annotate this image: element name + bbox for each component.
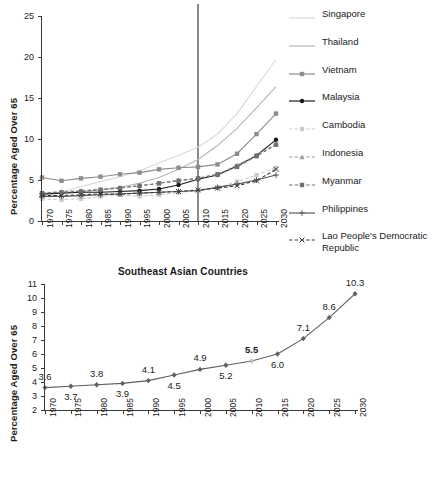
bottom-chart-title: Southeast Asian Countries	[118, 266, 248, 277]
y-axis-tick	[38, 180, 42, 181]
legend-item-label: Cambodia	[322, 119, 365, 131]
legend-item-malaysia[interactable]: Malaysia	[288, 91, 433, 119]
y-axis-tick-label: 9	[11, 308, 37, 317]
x-axis-tick	[179, 221, 180, 225]
y-axis-tick-label: 10	[11, 294, 37, 303]
legend-key-swatch	[288, 68, 316, 80]
x-axis-tick-label: 2010	[202, 209, 211, 228]
x-axis-tick	[257, 221, 258, 225]
y-axis-tick-label: 0	[8, 217, 34, 226]
legend-item-label: Philippines	[322, 203, 368, 215]
legend-item-cambodia[interactable]: Cambodia	[288, 119, 433, 147]
x-axis-tick-label: 2030	[359, 398, 368, 417]
x-axis-tick-label: 1970	[49, 398, 58, 417]
x-axis-tick-label: 2005	[182, 209, 191, 228]
y-axis-line	[41, 16, 42, 222]
data-point-label: 4.5	[168, 381, 181, 391]
x-axis-tick	[252, 410, 253, 414]
y-axis-tick	[38, 139, 42, 140]
y-axis-tick-label: 10	[8, 135, 34, 144]
x-axis-tick	[123, 410, 124, 414]
y-axis-tick	[41, 354, 45, 355]
x-axis-tick	[42, 221, 43, 225]
legend-item-label: Indonesia	[322, 147, 363, 159]
legend-item-vietnam[interactable]: Vietnam	[288, 64, 433, 92]
y-axis-tick-label: 6	[11, 350, 37, 359]
y-axis-line	[44, 284, 45, 411]
legend: SingaporeThailandVietnamMalaysiaCambodia…	[288, 8, 433, 258]
x-axis-tick	[101, 221, 102, 225]
x-axis-tick-label: 1990	[152, 398, 161, 417]
data-point-label: 7.1	[297, 323, 310, 333]
legend-item-lao-people-s-democratic-republic[interactable]: Lao People's Democratic Republic	[288, 230, 433, 258]
x-axis-tick	[276, 221, 277, 225]
y-axis-tick	[41, 298, 45, 299]
x-axis-tick	[198, 221, 199, 225]
x-axis-tick	[159, 221, 160, 225]
top-chart-y-axis-label: Percentage Aged Over 65	[8, 98, 19, 215]
data-point-label: 4.9	[193, 353, 206, 363]
legend-key-swatch	[288, 12, 316, 24]
data-point-label: 6.0	[271, 360, 284, 370]
x-axis-tick	[71, 410, 72, 414]
legend-item-label: Myanmar	[322, 175, 362, 187]
legend-item-label: Malaysia	[322, 91, 360, 103]
data-point-label: 3.8	[90, 369, 103, 379]
x-axis-tick-label: 2020	[241, 209, 250, 228]
legend-item-label: Lao People's Democratic Republic	[322, 230, 430, 253]
x-axis-tick-label: 1970	[46, 209, 55, 228]
x-axis-tick	[218, 221, 219, 225]
y-axis-tick	[41, 368, 45, 369]
x-axis-tick	[148, 410, 149, 414]
legend-item-thailand[interactable]: Thailand	[288, 36, 433, 64]
x-axis-tick-label: 2000	[204, 398, 213, 417]
x-axis-tick-label: 2015	[221, 209, 230, 228]
y-axis-tick-label: 3	[11, 392, 37, 401]
x-axis-tick-label: 1995	[143, 209, 152, 228]
y-axis-tick-label: 2	[11, 406, 37, 415]
y-axis-tick	[41, 382, 45, 383]
legend-key-swatch	[288, 151, 316, 163]
data-point-label: 4.1	[142, 365, 155, 375]
x-axis-tick	[97, 410, 98, 414]
x-axis-tick	[226, 410, 227, 414]
x-axis-tick-label: 1995	[178, 398, 187, 417]
x-axis-tick	[303, 410, 304, 414]
legend-item-indonesia[interactable]: Indonesia	[288, 147, 433, 175]
legend-item-myanmar[interactable]: Myanmar	[288, 175, 433, 203]
x-axis-tick-label: 2020	[307, 398, 316, 417]
x-axis-tick-label: 2005	[229, 398, 238, 417]
data-point-label: 8.6	[323, 302, 336, 312]
data-point-label: 5.2	[219, 371, 232, 381]
y-axis-tick-label: 5	[11, 364, 37, 373]
y-axis-tick-label: 4	[11, 378, 37, 387]
x-axis-tick-label: 1980	[100, 398, 109, 417]
legend-key-swatch	[288, 95, 316, 107]
legend-key-swatch	[288, 234, 316, 246]
y-axis-tick	[38, 16, 42, 17]
y-axis-tick	[41, 312, 45, 313]
x-axis-tick	[120, 221, 121, 225]
x-axis-tick-label: 1980	[85, 209, 94, 228]
x-axis-tick-label: 2030	[280, 209, 289, 228]
y-axis-tick-label: 5	[8, 176, 34, 185]
bottom-chart-plot-area: 2345678910111970197519801985199019952000…	[45, 284, 355, 410]
y-axis-tick	[38, 57, 42, 58]
x-axis-tick	[45, 410, 46, 414]
data-point-label: 3.7	[64, 392, 77, 402]
x-axis-tick	[237, 221, 238, 225]
x-axis-tick	[329, 410, 330, 414]
x-axis-tick	[62, 221, 63, 225]
x-axis-tick	[355, 410, 356, 414]
legend-item-philippines[interactable]: Philippines	[288, 203, 433, 231]
y-axis-tick	[38, 98, 42, 99]
x-axis-tick	[278, 410, 279, 414]
x-axis-tick-label: 2010	[255, 398, 264, 417]
x-axis-tick	[200, 410, 201, 414]
y-axis-tick-label: 11	[11, 280, 37, 289]
legend-item-singapore[interactable]: Singapore	[288, 8, 433, 36]
data-point-label: 10.3	[346, 278, 365, 288]
x-axis-tick	[140, 221, 141, 225]
x-axis-tick-label: 2025	[333, 398, 342, 417]
figure-container: Percentage Aged Over 65 0510152025197019…	[0, 0, 433, 483]
